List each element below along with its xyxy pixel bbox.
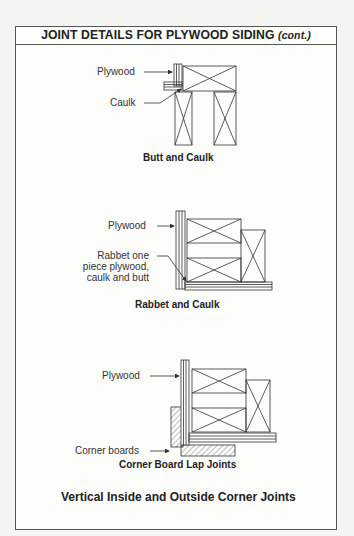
label-rabbet: Rabbet one piece plywood, caulk and butt — [74, 250, 149, 283]
label-plywood-1: Plywood — [97, 66, 135, 77]
corner-board-drawing — [150, 360, 276, 456]
label-plywood-3: Plywood — [102, 370, 140, 381]
label-rabbet-line3: caulk and butt — [74, 272, 149, 283]
label-caulk: Caulk — [110, 97, 136, 108]
label-corner-boards: Corner boards — [75, 445, 139, 456]
joint-drawings — [0, 0, 354, 536]
caption-butt-and-caulk: Butt and Caulk — [143, 152, 214, 163]
rabbet-and-caulk-drawing — [157, 211, 272, 290]
caption-rabbet-and-caulk: Rabbet and Caulk — [135, 299, 219, 310]
label-rabbet-line1: Rabbet one — [74, 250, 149, 261]
label-plywood-2: Plywood — [108, 220, 146, 231]
caption-corner-board-lap-joints: Corner Board Lap Joints — [119, 459, 236, 470]
footer-title: Vertical Inside and Outside Corner Joint… — [61, 490, 296, 504]
butt-and-caulk-drawing — [144, 64, 236, 145]
label-rabbet-line2: piece plywood, — [74, 261, 149, 272]
